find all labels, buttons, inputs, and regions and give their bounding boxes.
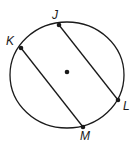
label-m: M [80,129,90,143]
chord-jl [59,25,118,100]
point-k [19,46,24,51]
circle-diagram: J K L M [0,0,136,144]
label-l: L [123,99,130,113]
circle [10,22,124,128]
point-l [116,98,121,103]
center-point [65,70,70,75]
label-j: J [51,8,59,22]
point-j [57,23,62,28]
label-k: K [6,34,15,48]
